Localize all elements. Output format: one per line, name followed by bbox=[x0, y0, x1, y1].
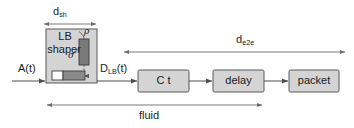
measure-label-d-sh: dsh bbox=[53, 6, 67, 17]
measure-label-fluid: fluid bbox=[139, 110, 159, 121]
block-label-ct: C t bbox=[138, 75, 189, 87]
shaper-output-signal-label: DLB(t) bbox=[100, 63, 127, 74]
measure-label-d-sh-sub: sh bbox=[59, 10, 67, 19]
shaper-output-suffix: (t) bbox=[117, 62, 127, 74]
bucket-depth-label-sigma: σ bbox=[68, 51, 74, 60]
lb-shaper-title-line2: shaper bbox=[44, 44, 84, 56]
measure-label-d-e2e: de2e bbox=[236, 34, 254, 45]
packet-queue-group bbox=[52, 71, 85, 80]
token-rate-label-rho: ρ bbox=[84, 27, 89, 36]
block-diagram: dsh de2e fluid A(t) LB shaper ρ σ DLB(t)… bbox=[0, 0, 354, 128]
shaper-output-main: D bbox=[100, 62, 108, 74]
lb-shaper-title-line1: LB bbox=[46, 31, 84, 43]
measure-label-d-e2e-sub: e2e bbox=[242, 38, 254, 47]
block-label-delay: delay bbox=[213, 75, 264, 87]
diagram-vector-layer bbox=[0, 0, 354, 128]
shaper-output-sub: LB bbox=[108, 67, 117, 76]
arrival-signal-label: A(t) bbox=[18, 63, 36, 74]
block-label-packet: packet bbox=[289, 75, 339, 87]
